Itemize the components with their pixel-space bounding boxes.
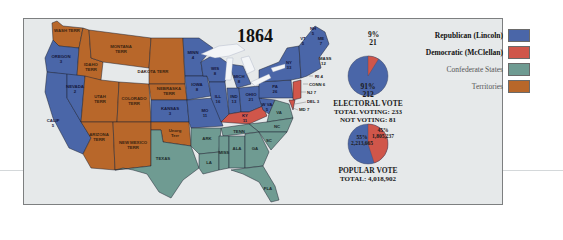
- popular-vote-title: POPULAR VOTE: [330, 167, 406, 175]
- popular-vote-total: TOTAL: 4,018,902: [330, 175, 406, 183]
- region-ala: [229, 136, 245, 168]
- label-mass: MASS12: [319, 56, 332, 66]
- label-idaho-terr: IDAHOTERR: [84, 62, 99, 72]
- popular-dem-votes: 1,805,237: [370, 133, 396, 139]
- region-dakota-terr: [149, 38, 185, 84]
- label-la: LA: [206, 160, 212, 165]
- electoral-vote-caption: ELECTORAL VOTE TOTAL VOTING: 233 NOT VOT…: [330, 100, 406, 124]
- legend-item-confederate: Confederate States: [408, 62, 530, 77]
- label-tenn: TENN: [233, 129, 245, 134]
- label-ky: KY11: [242, 113, 248, 123]
- legend-label-democratic: Democratic (McClellan): [426, 48, 503, 57]
- label-fla: FLA: [264, 186, 272, 191]
- electoral-rep-label: 91% 212: [358, 83, 378, 99]
- popular-dem-label: 45% 1,805,237: [370, 127, 396, 139]
- legend-swatch-territories: [508, 80, 530, 93]
- legend-item-republican: Republican (Lincoln): [408, 28, 530, 43]
- label-md: MD 7: [299, 107, 310, 112]
- map-legend: Republican (Lincoln) Democratic (McClell…: [408, 28, 530, 96]
- label-conn: CONN 6: [309, 82, 326, 87]
- legend-label-republican: Republican (Lincoln): [435, 31, 503, 40]
- label-del: DEL 3: [307, 99, 320, 104]
- region-fla: [231, 166, 279, 202]
- electoral-dem-votes: 21: [368, 39, 378, 47]
- map-title: 1864: [237, 26, 273, 47]
- label-ala: ALA: [233, 146, 242, 151]
- label-ark: ARK: [202, 136, 212, 141]
- region-ark: [191, 128, 221, 154]
- lake-michigan: [225, 58, 233, 80]
- region-nj: [293, 80, 301, 100]
- label-miss: MISS: [219, 150, 230, 155]
- legend-swatch-democratic: [508, 46, 530, 59]
- legend-label-confederate: Confederate States: [447, 65, 503, 74]
- legend-item-territories: Territories: [408, 79, 530, 94]
- legend-item-democratic: Democratic (McClellan): [408, 45, 530, 60]
- legend-swatch-republican: [508, 29, 530, 42]
- electoral-vote-title: ELECTORAL VOTE: [330, 100, 406, 108]
- label-ny: NY33: [286, 60, 292, 70]
- label-dakota-terr: DAKOTA TERR: [138, 69, 170, 74]
- label-utah-terr: UTAHTERR: [94, 94, 107, 104]
- label-wash-terr: WASH TERR: [54, 28, 81, 33]
- electoral-not-voting: NOT VOTING: 81: [330, 116, 406, 124]
- popular-rep-votes: 2,213,665: [349, 140, 375, 146]
- legend-swatch-confederate: [508, 63, 530, 76]
- electoral-rep-votes: 212: [358, 91, 378, 99]
- label-nc: NC: [274, 124, 280, 129]
- label-ri: RI 4: [315, 74, 323, 79]
- label-pa: PA26: [272, 84, 278, 94]
- legend-label-territories: Territories: [472, 82, 503, 91]
- label-nj: NJ 7: [307, 90, 317, 95]
- electoral-dem-label: 9% 21: [368, 31, 378, 47]
- label-ga: GA: [252, 146, 258, 151]
- label-sc: SC: [266, 138, 272, 143]
- label-va: VA: [276, 110, 282, 115]
- popular-vote-caption: POPULAR VOTE TOTAL: 4,018,902: [330, 167, 406, 183]
- electoral-total-voting: TOTAL VOTING: 233: [330, 108, 406, 116]
- label-texas: TEXAS: [156, 156, 170, 161]
